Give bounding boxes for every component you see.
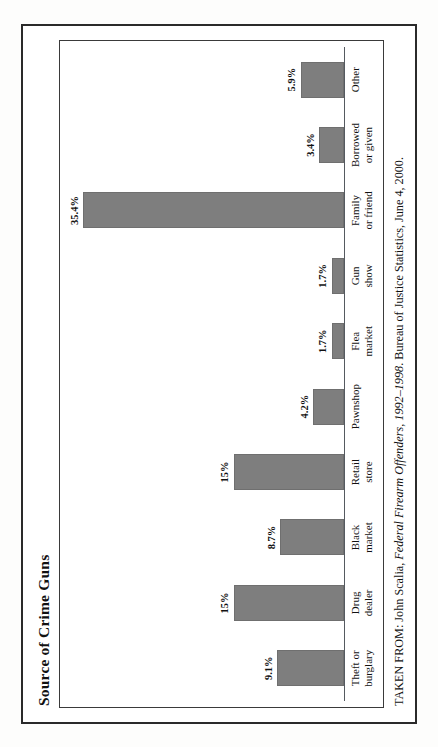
bar-column: 5.9%	[64, 46, 344, 111]
figure-box: Source of Crime Guns 9.1%15%8.7%15%4.2%1…	[21, 24, 417, 724]
bar-value-label: 4.2%	[300, 394, 311, 418]
chart-plot-area: 9.1%15%8.7%15%4.2%1.7%1.7%35.4%3.4%5.9% …	[64, 47, 383, 701]
bar-column: 1.7%	[64, 243, 344, 308]
category-label: Borrowed or given	[349, 112, 374, 177]
bar-rect	[234, 584, 345, 620]
category-label: Other	[349, 46, 361, 111]
category-label: Flea market	[349, 308, 374, 373]
bar-series: 9.1%15%8.7%15%4.2%1.7%1.7%35.4%3.4%5.9%	[64, 47, 345, 701]
bar-value-label: 35.4%	[70, 196, 81, 225]
category-label: Pawnshop	[349, 373, 361, 438]
chart-plot-frame: 9.1%15%8.7%15%4.2%1.7%1.7%35.4%3.4%5.9% …	[59, 40, 384, 708]
bar-column: 9.1%	[64, 635, 344, 700]
category-label: Retail store	[349, 439, 374, 504]
category-label: Gun show	[349, 243, 374, 308]
source-suffix: . Bureau of Justice Statistics, June 4, …	[392, 156, 406, 365]
bar-rect	[277, 650, 344, 686]
bar-value-label: 9.1%	[264, 656, 275, 680]
source-prefix: TAKEN FROM: John Scalia,	[392, 559, 406, 705]
bar-column: 1.7%	[64, 308, 344, 373]
bar-column: 4.2%	[64, 373, 344, 438]
bar-value-label: 15%	[220, 461, 231, 482]
bar-column: 3.4%	[64, 112, 344, 177]
bar-value-label: 15%	[220, 592, 231, 613]
bar-rect	[332, 323, 345, 359]
bar-column: 8.7%	[64, 504, 344, 569]
figure-title: Source of Crime Guns	[35, 40, 53, 706]
bar-value-label: 5.9%	[287, 67, 298, 91]
bar-value-label: 8.7%	[267, 525, 278, 549]
source-title-italic: Federal Firearm Offenders, 1992–1998	[392, 365, 406, 559]
bar-rect	[313, 388, 344, 424]
bar-rect	[319, 127, 344, 163]
bar-column: 15%	[64, 570, 344, 635]
category-label: Theft or burglary	[349, 635, 374, 700]
page-background: Source of Crime Guns 9.1%15%8.7%15%4.2%1…	[0, 0, 438, 747]
category-axis-labels: Theft or burglaryDrug dealerBlack market…	[345, 47, 383, 701]
bar-rect	[280, 519, 344, 555]
rotated-figure-wrapper: Source of Crime Guns 9.1%15%8.7%15%4.2%1…	[21, 24, 417, 724]
bar-column: 35.4%	[64, 177, 344, 242]
bar-value-label: 1.7%	[318, 329, 329, 353]
category-label: Black market	[349, 504, 374, 569]
category-label: Family or friend	[349, 177, 374, 242]
bar-rect	[234, 454, 345, 490]
bar-rect	[332, 257, 345, 293]
bar-value-label: 3.4%	[306, 133, 317, 157]
category-label: Drug dealer	[349, 570, 374, 635]
source-citation: TAKEN FROM: John Scalia, Federal Firearm…	[392, 40, 407, 706]
bar-rect	[83, 192, 344, 228]
bar-column: 15%	[64, 439, 344, 504]
bar-rect	[301, 61, 345, 97]
bar-value-label: 1.7%	[318, 264, 329, 288]
